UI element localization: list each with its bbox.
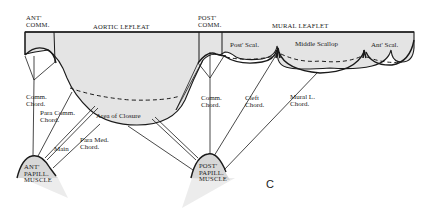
post-comm-label: POST'COMM. xyxy=(198,15,222,28)
mural-leaflet-label: MURAL LEAFLET xyxy=(272,23,328,30)
post-scallop-label: Post' Scal. xyxy=(230,42,259,49)
ant-scallop-label: Ant' Scal. xyxy=(371,42,398,49)
cleft-chord-label: CleftChord. xyxy=(245,95,264,109)
leaflet-body xyxy=(25,32,414,125)
area-of-closure-label: Area of Closure xyxy=(96,113,141,120)
aortic-leaflet-label: AORTIC LEFLEAT xyxy=(93,24,149,31)
ant-papillary-muscle-label: ANT'PAPILL.MUSCLE xyxy=(24,164,52,184)
panel-label: C xyxy=(266,179,274,190)
main-chord-label: Main xyxy=(54,146,69,153)
para-med-chord-label: Para Med.Chord. xyxy=(80,137,109,151)
post-papillary-muscle-label: POST'PAPILL.MUSCLE xyxy=(199,163,227,183)
comm-chord-right-label: Comm.Chord. xyxy=(201,95,222,109)
middle-scallop-label: Middle Scallop xyxy=(295,41,338,48)
mural-chord-label: Mural L.Chord. xyxy=(290,94,315,108)
ant-comm-label: ANT'COMM. xyxy=(26,15,50,28)
comm-chord-left-label: Comm.Chord. xyxy=(26,94,47,108)
para-comm-chord-label: Para Comm.Chord. xyxy=(40,110,75,124)
